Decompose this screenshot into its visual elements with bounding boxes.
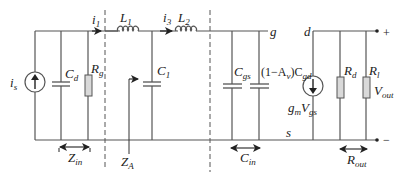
inductor-l2-icon — [175, 26, 196, 31]
resistor-rl-icon — [363, 31, 370, 140]
label-i3: i3 — [163, 10, 172, 27]
label-gate: g — [270, 24, 277, 39]
label-source: s — [286, 125, 291, 140]
label-is: is — [10, 75, 18, 92]
input-section — [25, 31, 377, 140]
transistor-model — [223, 29, 379, 142]
label-c1: C1 — [157, 63, 170, 80]
matching-network — [105, 26, 268, 154]
output-terminal-plus-icon — [375, 29, 379, 33]
label-rout: Rout — [346, 152, 367, 169]
label-cin: Cin — [240, 150, 256, 167]
za-indicator-icon — [129, 79, 138, 154]
label-l1: L1 — [119, 10, 132, 27]
capacitor-c1-icon — [143, 31, 161, 140]
capacitor-cd-icon — [52, 31, 70, 140]
label-zin: Zin — [68, 150, 83, 167]
label-rd: Rd — [343, 63, 357, 80]
capacitor-miller-icon — [250, 31, 269, 140]
label-rl: Rl — [368, 63, 380, 80]
label-l2: L2 — [177, 10, 190, 27]
resistor-rd-icon — [337, 31, 344, 140]
circuit-diagram: is i1 L1 i3 L2 Cd Rg C1 Cgs (1−Av)Cgd g … — [0, 0, 411, 182]
current-source-icon — [25, 72, 45, 92]
label-rg: Rg — [90, 61, 104, 78]
label-drain: d — [304, 24, 311, 39]
output-terminal-minus-icon — [375, 138, 379, 142]
inductor-l1-icon — [117, 26, 138, 31]
label-cd: Cd — [65, 66, 79, 83]
label-i1: i1 — [92, 12, 100, 29]
capacitor-cgs-icon — [223, 31, 242, 140]
label-za: ZA — [121, 154, 134, 171]
label-plus: + — [383, 26, 390, 40]
label-vout: Vout — [374, 83, 394, 100]
label-cgs: Cgs — [234, 64, 251, 81]
label-miller-cap: (1−Av)Cgd — [261, 65, 312, 81]
resistor-rg-icon — [85, 31, 92, 140]
label-minus: − — [383, 133, 390, 147]
